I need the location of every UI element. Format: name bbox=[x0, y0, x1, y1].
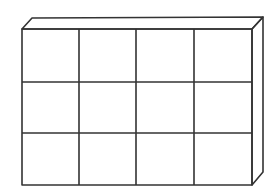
box-right-face bbox=[252, 17, 263, 185]
grid-box-diagram bbox=[0, 0, 273, 192]
box-top-face bbox=[22, 17, 263, 29]
box-front-face bbox=[22, 29, 252, 185]
